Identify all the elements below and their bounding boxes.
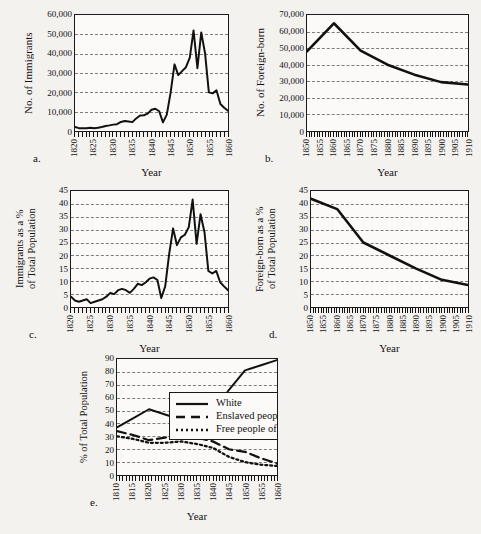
panel-b-y-axis-label: No. of Foreign-born <box>254 14 268 132</box>
x-tick: 1880 <box>384 139 393 157</box>
x-tick: 1860 <box>274 483 283 501</box>
panel-d: Foreign-born as a % of Total Population … <box>240 182 481 362</box>
x-tick: 1875 <box>370 139 379 157</box>
y-tick: 20,000 <box>47 88 72 97</box>
panel-b-x-minor-ticks <box>306 132 469 137</box>
panel-d-plot-area <box>310 190 469 308</box>
panel-b-y-ticks: 70,000 60,000 50,000 40,000 30,000 20,00… <box>268 14 304 132</box>
x-tick: 1890 <box>411 139 420 157</box>
y-tick: 45 <box>299 186 308 195</box>
panel-e-plot-area: White Enslaved people Free people of col… <box>116 358 278 476</box>
x-tick: 1830 <box>177 483 186 501</box>
x-tick: 1835 <box>193 483 202 501</box>
panel-a-x-minor-ticks <box>74 132 229 137</box>
x-tick: 1865 <box>346 315 355 333</box>
y-tick: 45 <box>59 186 68 195</box>
legend-line-solid-icon <box>175 399 209 409</box>
x-tick: 1880 <box>386 315 395 333</box>
x-tick: 1850 <box>306 315 315 333</box>
y-tick: 40,000 <box>47 49 72 58</box>
x-tick: 1890 <box>412 315 421 333</box>
y-tick: 70,000 <box>279 10 304 19</box>
panel-e-y-ticks: 90 80 70 60 50 40 30 20 10 0 <box>92 358 114 476</box>
panel-d-y-ticks: 45 40 35 30 25 20 15 10 5 0 <box>286 190 308 308</box>
panel-c-x-axis-label: Year <box>70 342 229 354</box>
panel-a-y-axis-label: No. of Immigrants <box>22 14 36 132</box>
x-tick: 1850 <box>302 139 311 157</box>
y-tick: 0 <box>64 304 69 313</box>
legend-label: Free people of color <box>216 424 278 435</box>
legend-item-enslaved-people: Enslaved people <box>175 410 278 423</box>
panel-e-y-axis-label: % of Total Population <box>78 358 92 476</box>
x-tick: 1870 <box>356 139 365 157</box>
y-tick: 60,000 <box>47 10 72 19</box>
panel-e-x-tick-labels: 1810 1815 1820 1825 1830 1835 1840 1845 … <box>116 483 278 509</box>
x-tick: 1825 <box>161 483 170 501</box>
y-tick: 20,000 <box>279 94 304 103</box>
y-tick: 40 <box>299 199 308 208</box>
x-tick: 1865 <box>343 139 352 157</box>
panel-b-plot-area <box>306 14 469 132</box>
x-tick: 1885 <box>399 315 408 333</box>
y-tick: 5 <box>304 290 309 299</box>
y-tick: 10 <box>105 458 114 467</box>
x-tick: 1855 <box>316 139 325 157</box>
x-tick: 1850 <box>186 139 195 157</box>
panel-a: No. of Immigrants 60,000 50,000 40,000 3… <box>0 0 240 182</box>
panel-e-letter: e. <box>90 496 98 508</box>
panel-a-y-ticks: 60,000 50,000 40,000 30,000 20,000 10,00… <box>36 14 72 132</box>
x-tick: 1840 <box>148 139 157 157</box>
panel-d-y-axis-label: Foreign-born as a % of Total Population <box>254 190 284 308</box>
x-tick: 1895 <box>424 139 433 157</box>
y-tick: 60,000 <box>279 26 304 35</box>
legend-label: Enslaved people <box>216 411 278 422</box>
panel-d-letter: d. <box>269 328 277 340</box>
panel-e-x-minor-ticks <box>116 476 278 481</box>
legend-line-dotted-icon <box>175 425 209 435</box>
y-tick: 90 <box>105 354 114 363</box>
x-tick: 1855 <box>205 315 214 333</box>
panel-e-x-axis-label: Year <box>116 510 278 522</box>
y-tick: 30 <box>105 432 114 441</box>
y-tick: 0 <box>304 304 309 313</box>
legend-line-dashed-icon <box>175 412 209 422</box>
x-tick: 1855 <box>206 139 215 157</box>
x-tick: 1840 <box>146 315 155 333</box>
panel-a-x-axis-label: Year <box>74 166 229 178</box>
y-tick: 30 <box>59 225 68 234</box>
x-tick: 1845 <box>225 483 234 501</box>
x-tick: 1825 <box>89 139 98 157</box>
x-tick: 1895 <box>425 315 434 333</box>
x-tick: 1855 <box>319 315 328 333</box>
x-tick: 1830 <box>109 139 118 157</box>
y-tick: 50 <box>105 406 114 415</box>
y-tick: 10,000 <box>47 108 72 117</box>
x-tick: 1845 <box>167 139 176 157</box>
y-tick: 0 <box>110 472 115 481</box>
x-tick: 1905 <box>452 315 461 333</box>
y-tick: 0 <box>68 128 73 137</box>
y-tick: 40 <box>105 419 114 428</box>
panel-c-letter: c. <box>29 328 37 340</box>
x-tick: 1830 <box>106 315 115 333</box>
y-tick: 25 <box>59 238 68 247</box>
x-tick: 1870 <box>359 315 368 333</box>
y-tick: 40 <box>59 199 68 208</box>
panel-b-series-foreign-born <box>307 15 468 131</box>
y-tick: 0 <box>300 128 305 137</box>
panel-d-series-foreign-born-pct <box>311 191 468 307</box>
x-tick: 1850 <box>185 315 194 333</box>
panel-b: No. of Foreign-born 70,000 60,000 50,000… <box>240 0 481 182</box>
y-tick: 20 <box>59 251 68 260</box>
panel-c-x-minor-ticks <box>70 308 229 313</box>
legend-label: White <box>216 398 242 409</box>
panel-e: % of Total Population 90 80 70 60 50 40 … <box>60 358 481 534</box>
x-tick: 1900 <box>438 139 447 157</box>
panel-b-letter: b. <box>265 152 273 164</box>
y-tick: 25 <box>299 238 308 247</box>
x-tick: 1910 <box>465 139 474 157</box>
y-tick: 70 <box>105 380 114 389</box>
panel-c-y-ticks: 45 40 35 30 25 20 15 10 5 0 <box>46 190 68 308</box>
y-tick: 10,000 <box>279 111 304 120</box>
panel-d-x-tick-labels: 1850 1855 1860 1865 1870 1875 1880 1885 … <box>310 315 469 341</box>
